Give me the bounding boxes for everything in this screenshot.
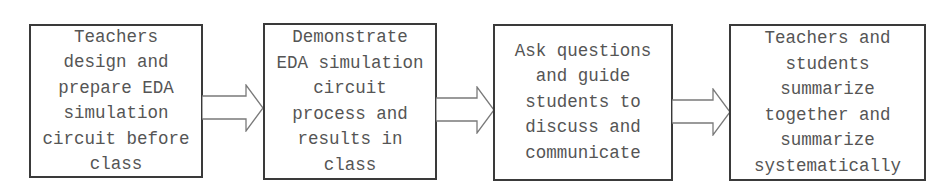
step-text-1: Teachers design and prepare EDA simulati… [42, 25, 189, 178]
hollow-right-arrow-icon [202, 84, 264, 132]
step-box-3: Ask questions and guide students to disc… [493, 24, 673, 181]
step-box-4: Teachers and students summarize together… [729, 24, 926, 181]
hollow-right-arrow-icon [436, 86, 495, 134]
hollow-right-arrow-icon [672, 88, 731, 136]
step-text-3: Ask questions and guide students to disc… [515, 39, 652, 167]
step-text-2: Demonstrate EDA simulation circuit proce… [276, 25, 423, 178]
step-text-4: Teachers and students summarize together… [754, 26, 901, 179]
step-box-1: Teachers design and prepare EDA simulati… [29, 24, 203, 178]
step-box-2: Demonstrate EDA simulation circuit proce… [263, 23, 437, 180]
